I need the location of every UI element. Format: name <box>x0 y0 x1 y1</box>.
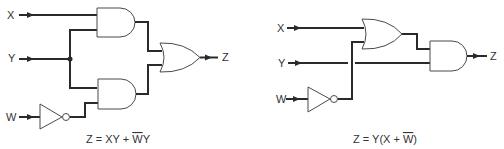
left-wire-and2-out <box>136 65 162 94</box>
arrow-icon <box>27 114 34 120</box>
left-output-z-label: Z <box>222 51 229 63</box>
right-input-x-label: X <box>277 22 285 34</box>
arrow-icon <box>205 55 212 61</box>
right-equation: Z = Y(X + W) <box>353 133 417 145</box>
left-equation: Z = XY + WY <box>86 133 151 145</box>
overbar-w: W <box>403 133 414 145</box>
right-wire-y <box>288 60 430 66</box>
right-wire-x <box>287 25 364 31</box>
arrow-icon <box>27 12 34 18</box>
right-output-z-label: Z <box>490 50 497 62</box>
left-input-w-label: W <box>6 111 17 123</box>
right-or-gate <box>362 19 402 49</box>
arrow-icon <box>293 96 300 102</box>
arrow-icon <box>473 53 480 59</box>
overbar-w: W <box>132 133 143 145</box>
right-input-w-label: W <box>276 93 287 105</box>
left-not-gate <box>40 104 70 129</box>
inversion-bubble-icon <box>331 96 338 103</box>
right-input-y-label: Y <box>278 57 286 69</box>
left-wire-w <box>19 114 40 120</box>
logic-circuits-diagram: X Y W Z <box>0 0 504 149</box>
right-and-gate <box>430 41 467 71</box>
right-circuit: X Y W Z <box>276 19 497 145</box>
left-and-gate-1 <box>97 8 135 37</box>
arrow-icon <box>294 25 301 31</box>
left-input-y-label: Y <box>8 52 16 64</box>
left-or-gate <box>160 43 200 72</box>
left-wire-z <box>200 55 218 61</box>
right-wire-wbar <box>338 42 364 99</box>
left-wire-y <box>19 30 97 88</box>
arrow-icon <box>295 60 302 66</box>
inversion-bubble-icon <box>63 114 70 121</box>
left-circuit: X Y W Z <box>6 8 229 145</box>
left-wire-x <box>19 12 97 18</box>
left-and-gate-2 <box>98 79 136 109</box>
right-wire-w <box>286 96 308 102</box>
left-wire-and1-out <box>135 22 162 51</box>
left-wire-wbar <box>70 103 98 117</box>
arrow-icon <box>27 56 34 62</box>
right-wire-or-out <box>402 34 430 49</box>
left-input-x-label: X <box>7 9 15 21</box>
right-wire-z <box>467 53 487 59</box>
right-not-gate <box>308 87 338 112</box>
